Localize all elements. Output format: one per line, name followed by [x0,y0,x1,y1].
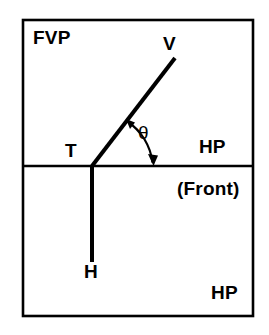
label-hp-bottom: HP [211,283,238,303]
label-hp-front: HP (Front) [177,117,240,239]
label-point-v: V [163,34,176,54]
diagram-canvas: FVP V T θ HP (Front) H HP [0,0,269,335]
label-hp-front-line1: HP [199,136,226,157]
label-hp-front-line2: (Front) [177,179,240,199]
label-point-t: T [65,141,77,161]
label-fvp: FVP [33,28,71,48]
label-point-h: H [84,262,98,282]
label-angle-theta: θ [138,123,149,143]
